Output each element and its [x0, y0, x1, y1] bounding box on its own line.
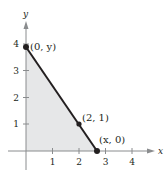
point-0-y: [23, 44, 29, 50]
y-tick-label-1: 1: [13, 119, 19, 129]
point-2-1: [76, 121, 81, 126]
chart: 1 2 3 4 1 2 3 4 x y (0, y) (2, 1) (x, 0): [0, 0, 166, 176]
chart-svg: 1 2 3 4 1 2 3 4 x y (0, y) (2, 1) (x, 0): [0, 0, 166, 176]
y-tick-label-3: 3: [13, 66, 19, 76]
x-tick-label-3: 3: [103, 157, 109, 167]
x-axis-label: x: [158, 146, 163, 156]
x-tick-label-1: 1: [50, 157, 56, 167]
point-x-0: [94, 148, 100, 154]
y-axis-arrow-icon: [24, 21, 29, 29]
point-label-x-0: (x, 0): [99, 134, 125, 145]
y-axis-label: y: [22, 9, 29, 19]
x-tick-label-4: 4: [129, 157, 135, 167]
y-tick-label-4: 4: [13, 39, 19, 49]
y-tick-label-2: 2: [13, 93, 19, 103]
x-axis-arrow-icon: [147, 149, 155, 154]
point-label-0-y: (0, y): [30, 41, 56, 52]
x-tick-label-2: 2: [76, 157, 82, 167]
point-label-2-1: (2, 1): [82, 112, 109, 123]
